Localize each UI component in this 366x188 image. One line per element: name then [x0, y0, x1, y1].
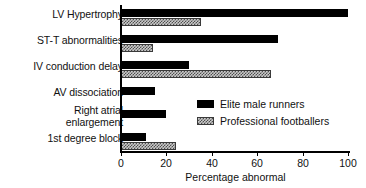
x-tick-label-0: 0 — [101, 157, 141, 169]
category-label-st-t-abnormalities: ST-T abnormalities — [3, 35, 123, 47]
x-tick-0 — [121, 152, 122, 156]
category-label-line-2: enlargement — [66, 116, 123, 128]
legend-swatch-hatched-gray-icon — [197, 117, 214, 125]
category-label-lv-hypertrophy: LV Hypertrophy — [3, 9, 123, 21]
category-label-av-dissociation: AV dissociation — [3, 87, 123, 99]
bar-elite-lv-hypertrophy — [121, 9, 348, 17]
x-axis-title: Percentage abnormal — [121, 171, 350, 183]
bar-elite-st-t-abnormalities — [121, 35, 278, 43]
x-tick-label-100: 100 — [328, 157, 366, 169]
x-tick-40 — [212, 152, 213, 156]
ecg-abnormality-bar-chart: LV Hypertrophy ST-T abnormalities IV con… — [0, 0, 366, 188]
x-tick-20 — [166, 152, 167, 156]
category-label-line-1: Right atrial — [74, 104, 123, 116]
legend-entry-elite-male-runners: Elite male runners — [197, 97, 329, 111]
legend-label-elite-male-runners: Elite male runners — [220, 98, 305, 110]
legend-label-professional-footballers: Professional footballers — [220, 115, 329, 127]
bar-elite-right-atrial-enlargement — [121, 110, 166, 118]
category-label-right-atrial-enlargement: Right atrial enlargement — [3, 105, 123, 128]
x-tick-80 — [303, 152, 304, 156]
bar-pro-lv-hypertrophy — [121, 18, 201, 26]
category-label-1st-degree-block: 1st degree block — [3, 133, 123, 145]
bar-pro-1st-degree-block — [121, 142, 176, 150]
x-tick-60 — [257, 152, 258, 156]
x-axis-line — [120, 151, 350, 153]
x-tick-label-40: 40 — [192, 157, 232, 169]
legend-entry-professional-footballers: Professional footballers — [197, 114, 329, 128]
legend: Elite male runners Professional football… — [197, 97, 329, 131]
bar-pro-iv-conduction-delay — [121, 70, 271, 78]
bar-pro-st-t-abnormalities — [121, 44, 153, 52]
x-tick-label-80: 80 — [283, 157, 323, 169]
category-label-iv-conduction-delay: IV conduction delay — [3, 61, 123, 73]
bar-elite-av-dissociation — [121, 87, 155, 95]
x-tick-label-60: 60 — [237, 157, 277, 169]
x-tick-100 — [348, 152, 349, 156]
legend-swatch-solid-black-icon — [197, 100, 214, 108]
x-tick-label-20: 20 — [146, 157, 186, 169]
bar-elite-iv-conduction-delay — [121, 61, 189, 69]
bar-elite-1st-degree-block — [121, 133, 146, 141]
y-axis-line — [120, 5, 122, 152]
